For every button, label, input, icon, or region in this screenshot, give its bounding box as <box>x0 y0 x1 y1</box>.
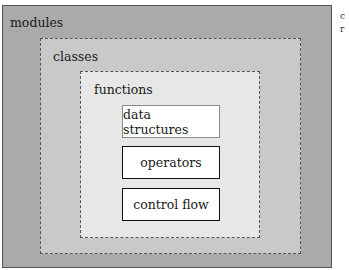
clipped-edge-text: r <box>340 24 344 34</box>
classes-label: classes <box>53 49 98 64</box>
modules-label: modules <box>10 15 63 30</box>
operators-label: operators <box>140 155 201 170</box>
functions-label: functions <box>94 82 153 97</box>
operators-box: operators <box>122 146 220 179</box>
control-flow-label: control flow <box>133 197 209 212</box>
clipped-edge-text: c <box>340 11 345 21</box>
data-structures-label: data structures <box>123 107 219 137</box>
data-structures-box: data structures <box>122 105 220 138</box>
control-flow-box: control flow <box>122 188 220 221</box>
